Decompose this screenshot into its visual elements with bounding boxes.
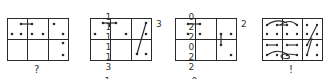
panel-4-caption: ! (289, 64, 293, 75)
panel-3-side-label: 2 (241, 19, 247, 29)
panel-1: ? (0, 0, 80, 79)
panel-2-side-label: 3 (156, 19, 162, 29)
panel-1-caption: ? (34, 64, 39, 75)
panel-4: ! (252, 0, 328, 79)
panel-3-grid (166, 0, 252, 79)
panel-1-grid (0, 0, 80, 79)
panel-2-bottom-labels: 1 0 0 1 ω̄ω (93, 66, 120, 79)
panel-3: 0 2 2 0 2 2 2 0 1 1 0 ω̄ω (166, 0, 252, 79)
panel-2: 1 1 1 1 1 3 3 1 0 0 1 ω̄ω (80, 0, 166, 79)
panel-3-bottom-labels: 0 1 1 0 ω̄ω (180, 66, 207, 79)
